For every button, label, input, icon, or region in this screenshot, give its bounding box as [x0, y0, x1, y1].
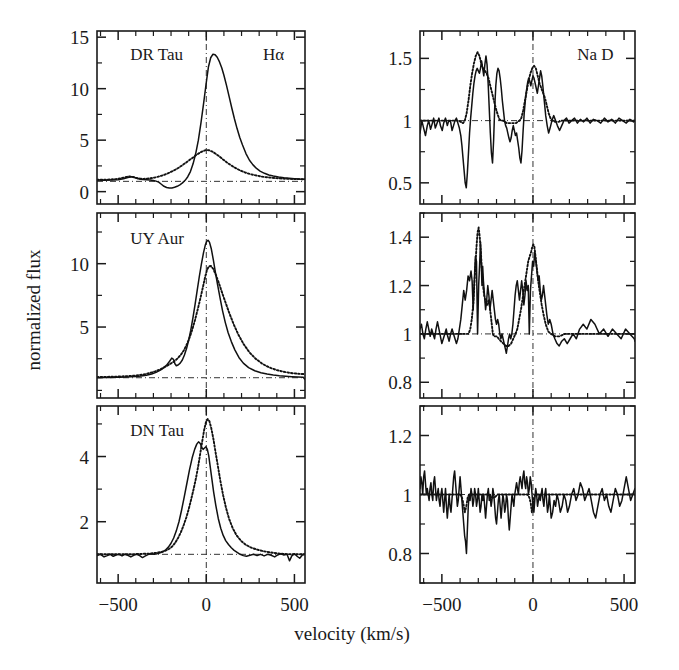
y-tick-label: 1: [403, 324, 413, 345]
y-tick-label: 2: [80, 512, 90, 533]
panel-title-dr-tau-halpha: DR Tau: [130, 45, 183, 64]
trace-observed: [97, 240, 305, 379]
panel-dn-tau-nad: 0.811.2−5000500: [388, 406, 638, 615]
panel-uy-aur-halpha: 510UY Aur: [70, 213, 305, 398]
figure-spectra-panels: 051015DR TauHα510UY Aur24−5000500DN Tau0…: [0, 0, 679, 670]
y-tick-label: 0: [80, 182, 90, 203]
y-tick-label: 0.5: [388, 173, 412, 194]
y-tick-label: 0.8: [388, 372, 412, 393]
x-tick-label: 0: [528, 594, 538, 615]
panel-dr-tau-nad: 0.511.5Na D: [388, 31, 635, 204]
trace-model: [97, 266, 305, 377]
x-tick-label: 0: [202, 594, 212, 615]
y-tick-label: 1.2: [388, 426, 412, 447]
y-axis-title: normalized flux: [23, 249, 44, 370]
x-axis-title: velocity (km/s): [294, 623, 410, 645]
y-tick-label: 1.4: [388, 227, 412, 248]
panel-uy-aur-nad: 0.811.21.4: [388, 213, 635, 398]
panel-frame: [97, 213, 305, 398]
y-tick-label: 10: [70, 79, 89, 100]
y-tick-label: 5: [80, 317, 90, 338]
line-label-dr-tau-nad: Na D: [577, 45, 613, 64]
figure-canvas: 051015DR TauHα510UY Aur24−5000500DN Tau0…: [0, 0, 679, 670]
x-tick-label: −500: [422, 594, 461, 615]
line-label-dr-tau-halpha: Hα: [263, 45, 284, 64]
trace-model: [97, 419, 305, 554]
x-tick-label: 500: [280, 594, 309, 615]
y-tick-label: 5: [80, 130, 90, 151]
y-tick-label: 1: [403, 111, 413, 132]
trace-model: [97, 150, 305, 180]
y-tick-label: 15: [70, 27, 89, 48]
trace-observed: [97, 442, 305, 561]
panel-frame: [420, 213, 635, 398]
panel-dr-tau-halpha: 051015DR TauHα: [70, 27, 305, 204]
panel-title-dn-tau-halpha: DN Tau: [130, 421, 184, 440]
y-tick-label: 1.2: [388, 276, 412, 297]
trace-observed: [420, 471, 635, 554]
y-tick-label: 4: [80, 447, 90, 468]
trace-observed: [420, 242, 635, 353]
x-tick-label: −500: [99, 594, 138, 615]
x-tick-label: 500: [610, 594, 639, 615]
y-tick-label: 1.5: [388, 48, 412, 69]
y-tick-label: 10: [70, 254, 89, 275]
panel-title-uy-aur-halpha: UY Aur: [130, 229, 184, 248]
trace-observed: [420, 56, 635, 188]
y-tick-label: 0.8: [388, 544, 412, 565]
trace-observed: [97, 54, 305, 188]
y-tick-label: 1: [403, 485, 413, 506]
panel-dn-tau-halpha: 24−5000500DN Tau: [80, 406, 309, 615]
